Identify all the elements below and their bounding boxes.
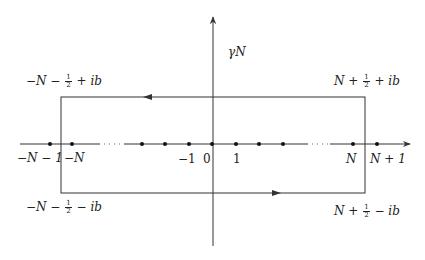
corner-top-right: N + 12 + ib xyxy=(334,74,400,89)
arrow-left-icon xyxy=(143,94,152,100)
corner-bottom-right: N + 12 − ib xyxy=(334,204,400,219)
label-neg-n-minus-1: −N − 1 xyxy=(17,152,63,164)
diagram-graphics xyxy=(0,0,425,260)
label-neg-n: −N xyxy=(64,152,85,164)
contour-diagram: γN −N − 12 + ib N + 12 + ib −N − 12 − ib… xyxy=(0,0,425,260)
corner-bottom-left: −N − 12 − ib xyxy=(26,200,102,215)
label-neg-1: −1 xyxy=(178,153,196,165)
arrow-right-icon xyxy=(272,190,281,196)
contour-label: γN xyxy=(228,46,246,58)
label-n: N xyxy=(346,153,357,165)
label-one: 1 xyxy=(233,153,241,165)
corner-top-left: −N − 12 + ib xyxy=(26,74,102,89)
label-zero: 0 xyxy=(203,153,211,165)
label-n-plus-1: N + 1 xyxy=(370,153,406,165)
